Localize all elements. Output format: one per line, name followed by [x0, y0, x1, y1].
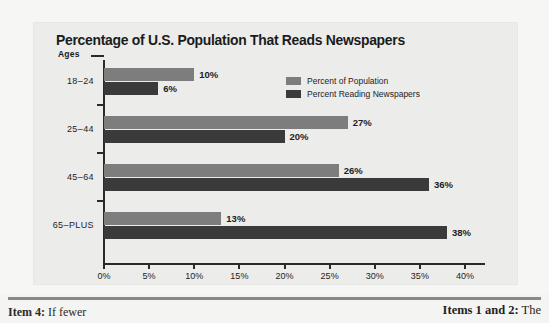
y-axis-tick-label: 45–64: [67, 172, 94, 182]
footer-left-rest: If fewer: [45, 305, 86, 319]
bar-readers: [104, 130, 285, 143]
x-axis-tick: [374, 263, 376, 269]
y-axis-tick-label: 25–44: [67, 124, 94, 134]
bar-value-label: 36%: [434, 178, 453, 191]
footer-right-rest: The: [519, 303, 541, 317]
x-axis-tick-label: 40%: [456, 271, 474, 281]
x-axis-tick-label: 35%: [411, 271, 429, 281]
bar-value-label: 26%: [344, 164, 363, 177]
legend-label-population: Percent of Population: [307, 76, 388, 86]
bar-population: [104, 68, 194, 81]
bar-value-label: 20%: [290, 130, 309, 143]
x-axis-tick: [193, 263, 195, 269]
x-axis-tick-label: 0%: [97, 271, 110, 281]
x-axis-tick: [329, 263, 331, 269]
bar-readers: [104, 178, 429, 191]
legend-label-readers: Percent Reading Newspapers: [307, 89, 420, 99]
page-divider-rule: [8, 297, 541, 300]
x-axis-tick-label: 20%: [275, 271, 293, 281]
bar-population: [104, 116, 348, 129]
legend-swatch-icon-readers: [286, 90, 301, 98]
y-axis-tick: [97, 104, 104, 106]
footer-right-bold: Items 1 and 2:: [443, 303, 519, 317]
x-axis-tick: [238, 263, 240, 269]
y-axis-tick-label: 18–24: [67, 76, 94, 86]
x-axis-tick-label: 10%: [185, 271, 203, 281]
x-axis-tick-label: 15%: [230, 271, 248, 281]
x-axis-tick: [284, 263, 286, 269]
x-axis-tick-label: 25%: [321, 271, 339, 281]
bar-value-label: 38%: [452, 226, 471, 239]
legend-item-percent-reading-newspapers: Percent Reading Newspapers: [286, 89, 420, 99]
x-axis-tick-label: 5%: [143, 271, 156, 281]
y-axis-tick: [97, 152, 104, 154]
legend-swatch-icon-population: [286, 77, 301, 85]
chart-legend: Percent of Population Percent Reading Ne…: [286, 76, 420, 99]
ages-elbow-connector: [91, 55, 104, 63]
x-axis-tick: [148, 263, 150, 269]
page-canvas: Percentage of U.S. Population That Reads…: [0, 0, 549, 323]
x-axis-tick-label: 30%: [366, 271, 384, 281]
bar-value-label: 13%: [226, 212, 245, 225]
bar-value-label: 6%: [163, 82, 177, 95]
x-axis-line: [103, 263, 485, 265]
x-axis-tick: [464, 263, 466, 269]
chart-panel: Percentage of U.S. Population That Reads…: [33, 22, 518, 285]
bar-value-label: 10%: [199, 68, 218, 81]
bar-readers: [104, 82, 158, 95]
bar-readers: [104, 226, 447, 239]
x-axis-tick: [103, 263, 105, 269]
legend-item-percent-of-population: Percent of Population: [286, 76, 420, 86]
y-axis-tick: [97, 200, 104, 202]
chart-title: Percentage of U.S. Population That Reads…: [56, 32, 405, 48]
bar-value-label: 27%: [353, 116, 372, 129]
y-axis-title: Ages: [58, 49, 80, 59]
footer-note-right: Items 1 and 2: The: [443, 303, 541, 318]
footer-left-bold: Item 4:: [8, 305, 45, 319]
y-axis-tick-label: 65–PLUS: [53, 220, 94, 230]
bar-population: [104, 164, 339, 177]
bar-population: [104, 212, 221, 225]
x-axis-tick: [419, 263, 421, 269]
footer-note-left: Item 4: If fewer: [8, 305, 86, 320]
